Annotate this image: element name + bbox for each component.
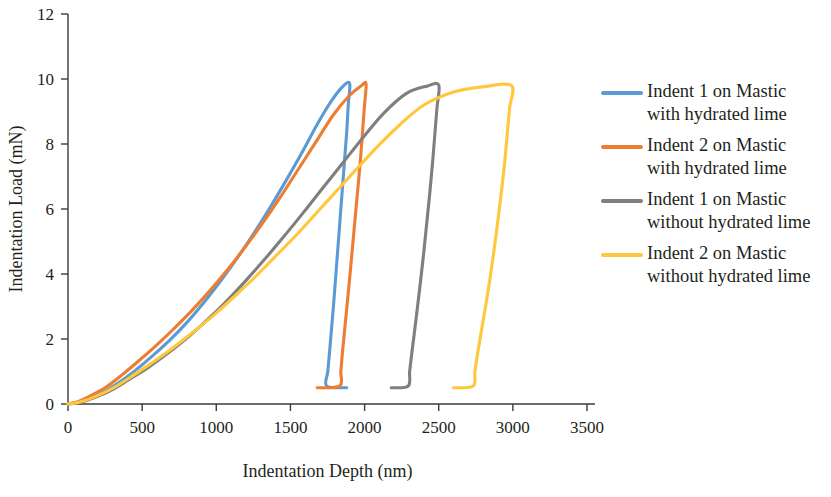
chart-figure: 0500100015002000250030003500024681012 In… bbox=[0, 0, 831, 497]
y-tick-label: 2 bbox=[46, 330, 55, 349]
legend-item-label: Indent 2 on Mastic with hydrated lime bbox=[647, 134, 787, 179]
series-curve-4 bbox=[68, 84, 513, 404]
legend-item-3[interactable]: Indent 1 on Mastic without hydrated lime bbox=[601, 188, 831, 233]
y-axis-title: Indentation Load (mN) bbox=[6, 126, 27, 293]
x-tick-label: 2500 bbox=[422, 418, 456, 437]
x-tick-label: 3000 bbox=[496, 418, 530, 437]
x-tick-label: 1500 bbox=[273, 418, 307, 437]
legend-swatch-icon bbox=[601, 199, 643, 203]
legend-item-1[interactable]: Indent 1 on Mastic with hydrated lime bbox=[601, 80, 831, 125]
legend-item-4[interactable]: Indent 2 on Mastic without hydrated lime bbox=[601, 242, 831, 287]
series-curve-2 bbox=[68, 82, 366, 404]
axes: 0500100015002000250030003500024681012 bbox=[37, 5, 604, 437]
x-tick-label: 3500 bbox=[570, 418, 604, 437]
y-tick-label: 4 bbox=[46, 265, 55, 284]
legend-swatch-icon bbox=[601, 145, 643, 149]
y-tick-label: 0 bbox=[46, 395, 55, 414]
legend-swatch-icon bbox=[601, 91, 643, 95]
x-tick-label: 1000 bbox=[199, 418, 233, 437]
x-tick-label: 500 bbox=[129, 418, 155, 437]
legend-item-label: Indent 2 on Mastic without hydrated lime bbox=[647, 242, 810, 287]
legend-item-label: Indent 1 on Mastic without hydrated lime bbox=[647, 188, 810, 233]
data-series bbox=[68, 82, 513, 404]
y-tick-label: 10 bbox=[37, 70, 54, 89]
x-axis-title: Indentation Depth (nm) bbox=[243, 461, 413, 482]
x-tick-label: 2000 bbox=[348, 418, 382, 437]
chart-legend: Indent 1 on Mastic with hydrated limeInd… bbox=[601, 80, 831, 297]
series-curve-1 bbox=[68, 82, 350, 404]
series-curve-3 bbox=[68, 83, 439, 404]
y-tick-label: 6 bbox=[46, 200, 55, 219]
legend-item-label: Indent 1 on Mastic with hydrated lime bbox=[647, 80, 787, 125]
legend-item-2[interactable]: Indent 2 on Mastic with hydrated lime bbox=[601, 134, 831, 179]
x-tick-label: 0 bbox=[64, 418, 73, 437]
y-tick-label: 8 bbox=[46, 135, 55, 154]
y-tick-label: 12 bbox=[37, 5, 54, 24]
legend-swatch-icon bbox=[601, 253, 643, 257]
